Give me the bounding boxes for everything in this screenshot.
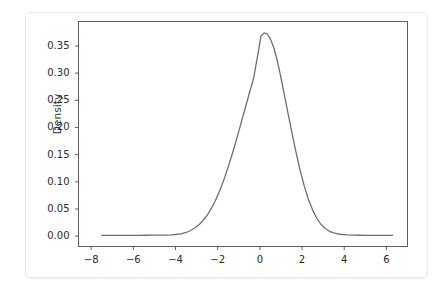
- plot-area: [0, 0, 447, 289]
- density-plot-figure: Density 0.000.050.100.150.200.250.300.35…: [0, 0, 447, 289]
- plot-frame: [79, 22, 408, 247]
